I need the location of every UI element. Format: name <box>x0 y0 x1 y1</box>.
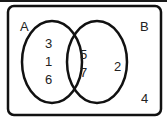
set-a-label: A <box>20 19 29 34</box>
venn-diagram: A B 3 1 6 5 7 2 4 <box>0 0 167 120</box>
intersection-element: 7 <box>80 65 87 80</box>
outside-element: 4 <box>141 91 148 106</box>
a-only-element: 3 <box>45 36 52 51</box>
b-only-element: 2 <box>114 59 121 74</box>
set-b-label: B <box>140 19 149 34</box>
a-only-element: 6 <box>45 72 52 87</box>
a-only-element: 1 <box>45 54 52 69</box>
intersection-element: 5 <box>80 47 87 62</box>
